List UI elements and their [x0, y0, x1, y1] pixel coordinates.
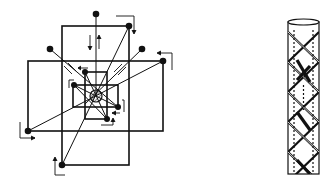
node-inner-left	[71, 82, 77, 88]
column-top-cap	[288, 19, 319, 25]
braced-column-svg	[240, 0, 335, 189]
nested-frame-svg	[0, 0, 190, 189]
braced-column-diagram	[240, 0, 335, 189]
node-inner-right	[115, 104, 121, 110]
node-inner-bottom	[104, 116, 110, 122]
node-inner-top	[82, 69, 88, 75]
nested-frame-diagram	[0, 0, 190, 189]
node-right	[160, 58, 167, 65]
node-upper-right-diag	[139, 46, 146, 53]
node-top	[93, 11, 100, 18]
node-lower-left	[25, 128, 32, 135]
node-upper-left-diag	[47, 46, 54, 53]
node-bottom	[59, 162, 66, 169]
node-upper-right	[126, 23, 133, 30]
center-core-icon	[90, 90, 102, 102]
